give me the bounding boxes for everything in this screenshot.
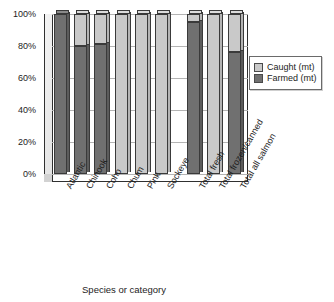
legend-swatch-caught bbox=[254, 63, 263, 72]
bar-side-farmed bbox=[67, 12, 70, 172]
bar-side-caught bbox=[220, 12, 223, 172]
bar-top-cap bbox=[230, 10, 243, 14]
bar-top-cap bbox=[157, 10, 170, 14]
x-axis-title: Species or category bbox=[0, 284, 248, 295]
bar-segment-caught bbox=[94, 14, 107, 44]
bar-total-fresh bbox=[187, 14, 200, 174]
legend-label-caught: Caught (mt) bbox=[267, 63, 315, 72]
bar-top-cap bbox=[96, 10, 109, 14]
bar-segment-caught bbox=[74, 14, 87, 46]
bar-side-caught bbox=[241, 12, 244, 50]
bar-side-caught bbox=[168, 12, 171, 172]
chart-legend: Caught (mt) Farmed (mt) bbox=[249, 56, 322, 90]
bar-coho bbox=[94, 14, 107, 174]
bar-side-caught bbox=[87, 12, 90, 44]
bar-chinook bbox=[74, 14, 87, 174]
legend-item-farmed: Farmed (mt) bbox=[254, 74, 317, 83]
bar-top-cap bbox=[137, 10, 150, 14]
y-tick-20: 20% bbox=[2, 138, 36, 147]
bar-side-caught bbox=[107, 12, 110, 42]
bar-top-cap bbox=[56, 10, 69, 14]
bar-top-cap bbox=[117, 10, 130, 14]
bar-segment-farmed bbox=[54, 14, 67, 174]
y-tick-100: 100% bbox=[2, 10, 36, 19]
legend-label-farmed: Farmed (mt) bbox=[267, 74, 317, 83]
bar-segment-farmed bbox=[187, 22, 200, 174]
y-tick-0: 0% bbox=[2, 170, 36, 179]
y-tick-40: 40% bbox=[2, 106, 36, 115]
bar-side-caught bbox=[128, 12, 131, 172]
bar-top-cap bbox=[189, 10, 202, 14]
bar-side-farmed bbox=[200, 20, 203, 172]
bar-side-farmed bbox=[107, 42, 110, 172]
bar-segment-caught bbox=[115, 14, 128, 174]
bar-top-cap bbox=[76, 10, 89, 14]
bar-side-caught bbox=[148, 12, 151, 172]
bar-segment-farmed bbox=[94, 44, 107, 174]
legend-item-caught: Caught (mt) bbox=[254, 63, 317, 72]
bar-sockeye bbox=[155, 14, 168, 174]
bar-segment-caught bbox=[155, 14, 168, 174]
stacked-bar-chart: 0%20%40%60%80%100% AtlanticChinookCohoCh… bbox=[0, 0, 334, 302]
bar-side-farmed bbox=[87, 44, 90, 172]
bar-top-cap bbox=[209, 10, 222, 14]
bar-chum bbox=[115, 14, 128, 174]
bar-segment-caught bbox=[228, 14, 241, 52]
bar-pink bbox=[135, 14, 148, 174]
bar-segment-caught bbox=[187, 14, 200, 22]
y-tick-60: 60% bbox=[2, 74, 36, 83]
bar-atlantic bbox=[54, 14, 67, 174]
legend-swatch-farmed bbox=[254, 74, 263, 83]
y-tick-80: 80% bbox=[2, 42, 36, 51]
bar-segment-caught bbox=[135, 14, 148, 174]
bar-segment-farmed bbox=[74, 46, 87, 174]
